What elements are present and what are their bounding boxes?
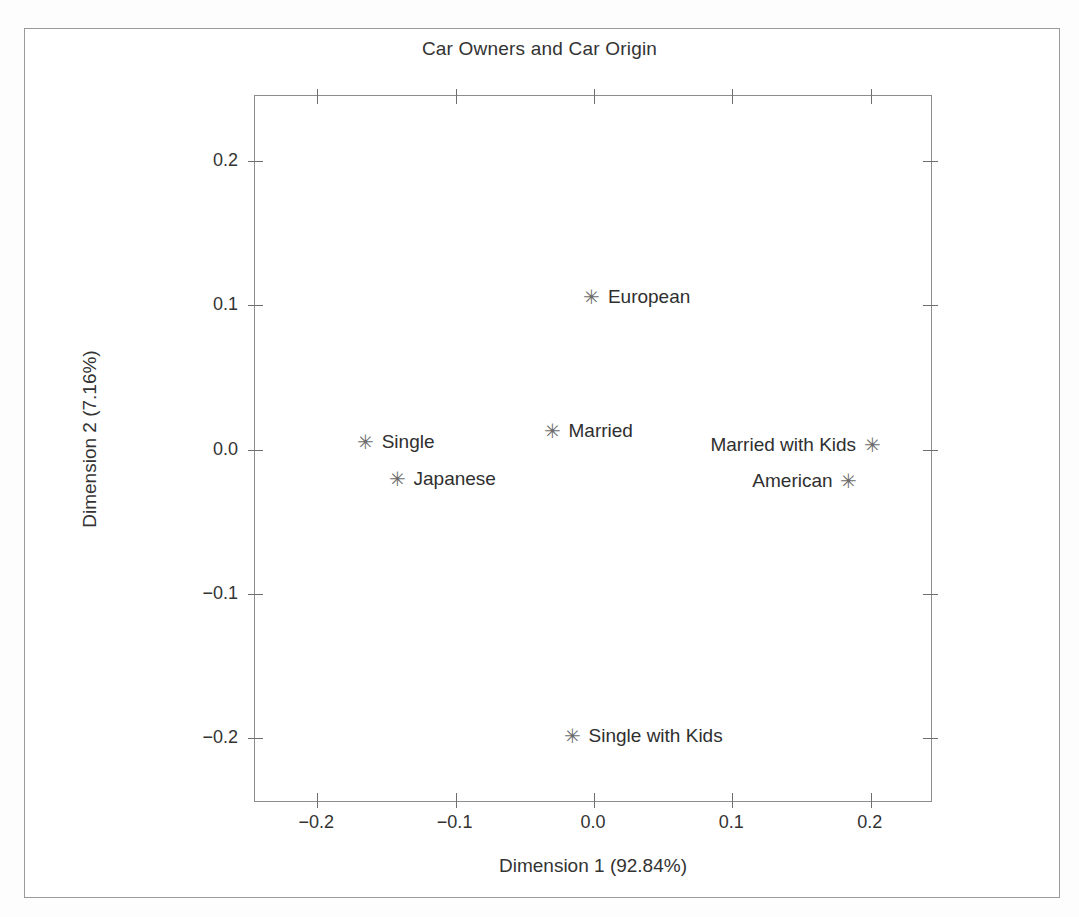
data-point-label: American: [752, 470, 832, 492]
x-axis-tick: [594, 793, 595, 808]
y-axis-tick: [248, 305, 263, 306]
y-axis-tick-label: −0.1: [202, 582, 238, 603]
data-point-label: Married: [568, 420, 632, 442]
y-axis-tick: [248, 738, 263, 739]
y-axis-label-wrap: Dimension 2 (7.16%): [0, 0, 180, 917]
x-axis-tick: [732, 89, 733, 104]
data-point-marker[interactable]: ✳: [840, 471, 857, 491]
y-axis-tick: [923, 594, 938, 595]
data-point-marker[interactable]: ✳: [864, 435, 881, 455]
y-axis-label: Dimension 2 (7.16%): [79, 189, 101, 689]
y-axis-tick: [923, 305, 938, 306]
x-axis-tick: [456, 793, 457, 808]
x-axis-tick: [871, 89, 872, 104]
figure-canvas: Car Owners and Car Origin ✳European✳Marr…: [0, 0, 1079, 917]
y-axis-tick: [923, 738, 938, 739]
y-axis-tick-label: 0.2: [213, 149, 238, 170]
data-point-marker[interactable]: ✳: [357, 432, 374, 452]
y-axis-tick: [248, 161, 263, 162]
x-axis-label: Dimension 1 (92.84%): [254, 855, 932, 877]
y-axis-tick: [923, 161, 938, 162]
data-point-label: Single: [382, 431, 435, 453]
data-point-label: Japanese: [414, 468, 496, 490]
data-point-marker[interactable]: ✳: [389, 469, 406, 489]
data-point-marker[interactable]: ✳: [544, 421, 561, 441]
x-axis-tick: [871, 793, 872, 808]
data-point-marker[interactable]: ✳: [583, 287, 600, 307]
x-axis-tick: [732, 793, 733, 808]
y-axis-tick-label: 0.1: [213, 294, 238, 315]
data-point-label: Single with Kids: [589, 725, 723, 747]
y-axis-tick-label: −0.2: [202, 727, 238, 748]
x-axis-tick: [317, 793, 318, 808]
plot-area: ✳European✳Married✳Single✳Japanese✳Marrie…: [254, 95, 932, 802]
y-axis-tick: [248, 450, 263, 451]
y-axis-tick: [923, 450, 938, 451]
x-axis-tick-label: −0.1: [437, 812, 473, 833]
data-point-marker[interactable]: ✳: [564, 726, 581, 746]
x-axis-tick-label: 0.1: [719, 812, 744, 833]
data-point-label: Married with Kids: [710, 434, 856, 456]
x-axis-tick-label: 0.2: [857, 812, 882, 833]
x-axis-tick: [317, 89, 318, 104]
x-axis-tick: [456, 89, 457, 104]
data-point-label: European: [608, 286, 690, 308]
y-axis-tick: [248, 594, 263, 595]
x-axis-tick: [594, 89, 595, 104]
y-axis-tick-label: 0.0: [213, 438, 238, 459]
x-axis-tick-label: 0.0: [580, 812, 605, 833]
x-axis-tick-label: −0.2: [298, 812, 334, 833]
